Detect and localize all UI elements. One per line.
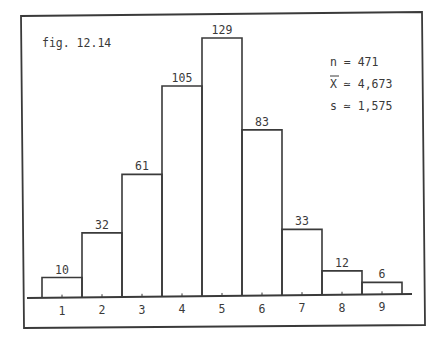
histogram-bar-4 xyxy=(162,86,202,297)
x-tick-label: 4 xyxy=(179,302,186,316)
x-tick-label: 5 xyxy=(219,302,226,316)
sd-stat: s ≃ 1,575 xyxy=(330,99,392,113)
x-tick-label: 9 xyxy=(379,300,386,314)
bar-value-label: 105 xyxy=(172,71,193,85)
x-tick-label: 3 xyxy=(139,303,146,317)
histogram-bar-6 xyxy=(242,130,282,296)
bar-value-label: 12 xyxy=(335,256,349,270)
histogram-figure: fig. 12.14 n = 471 X ≃ 4,673 s ≃ 1,575 1… xyxy=(0,0,443,340)
histogram-bar-7 xyxy=(282,229,322,295)
histogram-bar-5 xyxy=(202,38,242,296)
figure-caption: fig. 12.14 xyxy=(42,36,111,50)
histogram-bar-2 xyxy=(82,233,122,298)
n-stat: n = 471 xyxy=(330,55,379,69)
mean-stat: X ≃ 4,673 xyxy=(330,77,392,91)
bar-value-label: 6 xyxy=(379,267,386,281)
bar-value-label: 61 xyxy=(135,159,149,173)
histogram-bar-8 xyxy=(322,271,362,295)
bar-value-label: 33 xyxy=(295,214,309,228)
bar-value-label: 10 xyxy=(55,263,69,277)
histogram-bar-3 xyxy=(122,174,162,297)
x-tick-label: 7 xyxy=(299,301,306,315)
x-tick-label: 8 xyxy=(339,301,346,315)
x-tick-label: 2 xyxy=(99,303,106,317)
bar-value-label: 32 xyxy=(95,218,109,232)
bar-value-label: 129 xyxy=(212,23,233,37)
stats-annotation: n = 471 X ≃ 4,673 s ≃ 1,575 xyxy=(330,55,392,113)
bar-value-label: 83 xyxy=(255,115,269,129)
x-tick-label: 6 xyxy=(259,302,266,316)
x-axis xyxy=(27,294,412,298)
x-tick-label: 1 xyxy=(59,304,66,318)
